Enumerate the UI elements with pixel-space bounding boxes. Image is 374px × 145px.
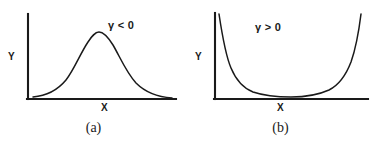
panel-caption-b: (b) — [187, 121, 374, 135]
u-curve-path-b — [219, 14, 361, 97]
gamma-annotation-a: γ < 0 — [108, 20, 134, 31]
chart-panel-a: Y X γ < 0 (a) — [0, 0, 187, 145]
x-axis-label-b: X — [277, 103, 284, 113]
chart-panel-b: Y X γ > 0 (b) — [187, 0, 374, 145]
figure-container: Y X γ < 0 (a) Y X γ > 0 (b) — [0, 0, 374, 145]
x-axis-label-a: X — [101, 103, 108, 113]
gamma-annotation-b: γ > 0 — [255, 22, 281, 33]
y-axis-label-a: Y — [8, 52, 15, 62]
panel-caption-a: (a) — [0, 121, 187, 135]
bell-curve-path-a — [33, 32, 172, 98]
y-axis-label-b: Y — [195, 52, 202, 62]
